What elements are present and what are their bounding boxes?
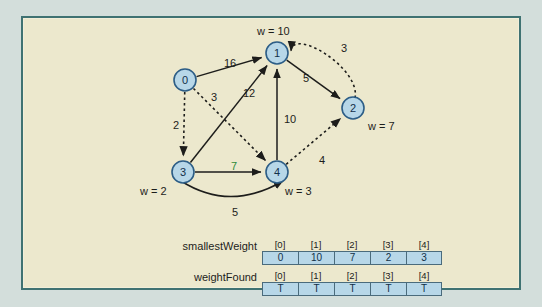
array-cell[interactable]: T [370,282,406,296]
edge-weight-label: 3 [211,92,217,103]
edge-weight-label: 7 [231,161,237,172]
array-cell[interactable]: 10 [298,251,334,265]
edge-weight-label: 16 [224,58,236,69]
array-cell[interactable]: T [334,282,370,296]
edge-weight-label: 4 [319,155,325,166]
graph-node-0[interactable] [174,69,196,91]
array-cell-row-1: TTTTT [262,282,442,296]
array-index: [4] [406,239,442,251]
edge-weight-label: 3 [341,43,347,54]
figure-page: 162312710545301w = 102w = 73w = 24w = 3 … [0,0,542,307]
node-weight-label: w = 2 [140,186,167,197]
graph-node-1[interactable] [266,42,288,64]
array-index-row-0: [0][1][2][3][4] [262,239,442,251]
array-index-row-1: [0][1][2][3][4] [262,270,442,282]
array-cell[interactable]: 0 [262,251,298,265]
array-label-smallestWeight: smallestWeight [183,239,262,253]
array-cell-row-0: 010723 [262,251,442,265]
edge-weight-label: 5 [303,73,309,84]
array-cell[interactable]: 3 [406,251,442,265]
node-layer [172,42,364,183]
array-index: [1] [298,270,334,282]
node-weight-label: w = 7 [368,121,395,132]
array-cell[interactable]: T [406,282,442,296]
edge-weight-label: 12 [243,88,255,99]
graph-node-4[interactable] [266,161,288,183]
graph-node-2[interactable] [342,97,364,119]
edge-weight-label: 10 [284,114,296,125]
array-cell[interactable]: 2 [370,251,406,265]
node-weight-label: w = 3 [285,186,312,197]
array-smallestWeight: smallestWeight [0][1][2][3][4] 010723 [262,239,442,265]
graph-edge [287,60,340,99]
graph-edge [190,66,267,163]
node-weight-label: w = 10 [257,26,290,37]
array-label-weightFound: weightFound [194,270,262,284]
graph-edge [286,118,341,164]
array-index: [3] [370,270,406,282]
array-index: [0] [262,270,298,282]
array-index: [0] [262,239,298,251]
array-index: [2] [334,239,370,251]
graph-edge [181,181,283,197]
graph-node-3[interactable] [172,161,194,183]
array-index: [4] [406,270,442,282]
graph-edge [183,92,184,156]
array-cell[interactable]: T [262,282,298,296]
edge-weight-label: 2 [173,120,179,131]
edge-weight-label: 5 [232,207,238,218]
array-cell[interactable]: 7 [334,251,370,265]
array-index: [1] [298,239,334,251]
array-weightFound: weightFound [0][1][2][3][4] TTTTT [262,270,442,296]
array-cell[interactable]: T [298,282,334,296]
array-index: [2] [334,270,370,282]
array-index: [3] [370,239,406,251]
graph-edge [193,88,265,160]
